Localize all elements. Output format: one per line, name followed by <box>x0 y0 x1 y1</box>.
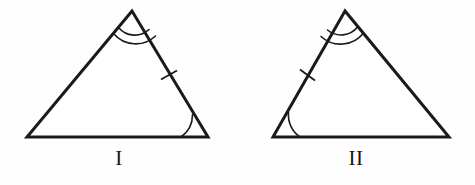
triangle-1-group <box>27 11 208 137</box>
triangle-2-label: II <box>237 148 475 169</box>
geometry-figure: I II <box>0 0 475 185</box>
triangle-1-label: I <box>0 148 238 169</box>
triangle-2-group <box>273 11 449 137</box>
